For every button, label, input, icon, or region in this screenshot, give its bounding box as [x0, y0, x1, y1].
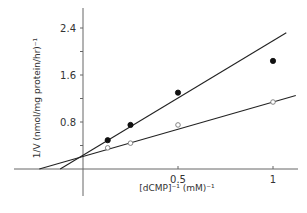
data-points: [105, 58, 276, 150]
fit-line: [39, 96, 296, 169]
y-tick-label: 0.8: [60, 117, 76, 128]
y-axis-label: 1/V (nmol/mg protein/hr)⁻¹: [32, 37, 42, 158]
lineweaver-burk-plot: 0.81.62.4 0.51 1/V (nmol/mg protein/hr)⁻…: [0, 0, 307, 213]
open-data-point: [271, 100, 276, 105]
open-data-point: [105, 146, 110, 151]
x-tick-label: 1: [270, 174, 276, 185]
y-ticks: 0.81.62.4: [60, 23, 83, 146]
filled-data-point: [270, 58, 275, 63]
open-data-point: [176, 123, 181, 128]
y-tick-label: 1.6: [60, 70, 76, 81]
x-axis-label: [dCMP]⁻¹ (mM)⁻¹: [139, 183, 215, 193]
y-tick-label: 2.4: [60, 23, 76, 34]
filled-data-point: [128, 122, 133, 127]
fit-line: [60, 33, 286, 169]
filled-data-point: [175, 90, 180, 95]
filled-data-point: [105, 138, 110, 143]
fit-lines: [39, 33, 296, 169]
open-data-point: [128, 141, 133, 146]
